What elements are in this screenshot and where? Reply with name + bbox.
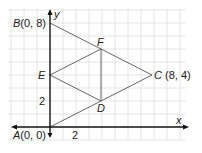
coordinate-diagram: y x 2 2 B(0, 8) A(0, 0) C (8, 4) F E D	[0, 0, 202, 153]
x-tick-label: 2	[72, 129, 78, 141]
point-B-label: B(0, 8)	[13, 17, 46, 29]
x-axis-arrow-icon	[183, 125, 189, 130]
point-A-label: A(0, 0)	[12, 129, 46, 141]
x-axis-label: x	[175, 114, 182, 126]
y-axis-down-arrow-icon	[48, 133, 53, 138]
y-tick-label: 2	[39, 95, 45, 107]
point-D-label: D	[97, 102, 105, 114]
point-E-label: E	[38, 69, 46, 81]
point-F-label: F	[97, 36, 105, 48]
point-C-label: C (8, 4)	[154, 69, 191, 81]
